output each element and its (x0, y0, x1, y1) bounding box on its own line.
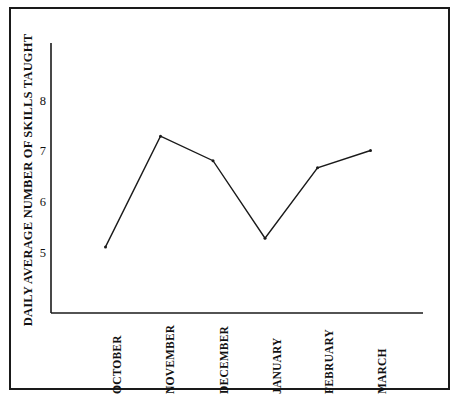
y-tick-label-8: 8 (28, 95, 46, 107)
x-tick-label-december: DECEMBER (218, 326, 230, 394)
y-axis-title: DAILY AVERAGE NUMBER OF SKILLS TAUGHT (18, 20, 38, 340)
data-point-march (369, 149, 372, 152)
data-point-november (159, 135, 162, 138)
data-point-february (316, 166, 319, 169)
series-markers (104, 135, 372, 249)
figure-container: DAILY AVERAGE NUMBER OF SKILLS TAUGHT 8 … (0, 0, 462, 420)
x-tick-label-february: FEBRUARY (323, 329, 335, 394)
plot-area: DAILY AVERAGE NUMBER OF SKILLS TAUGHT 8 … (0, 0, 462, 420)
data-point-january (264, 237, 267, 240)
y-tick-label-7: 7 (28, 145, 46, 157)
data-series-line (0, 0, 462, 420)
data-point-october (104, 245, 107, 248)
x-tick-label-march: MARCH (376, 348, 388, 394)
y-tick-label-5: 5 (28, 247, 46, 259)
x-tick-label-october: OCTOBER (111, 335, 123, 394)
x-tick-label-november: NOVEMBER (164, 325, 176, 394)
x-tick-label-january: JANUARY (271, 337, 283, 394)
series-polyline (106, 136, 371, 247)
data-point-december (212, 159, 215, 162)
y-tick-label-6: 6 (28, 196, 46, 208)
